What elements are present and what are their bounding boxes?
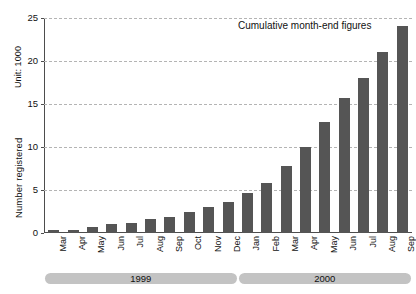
bar: [203, 207, 214, 233]
bar: [126, 223, 137, 233]
y-tick-label: 10: [27, 142, 38, 152]
bar: [300, 147, 311, 233]
bar: [339, 98, 350, 233]
x-tick-label: Mar: [58, 236, 68, 252]
bar: [319, 122, 330, 233]
bar: [164, 217, 175, 233]
bar: [68, 230, 79, 233]
bar: [106, 224, 117, 233]
x-tick-label: May: [329, 236, 339, 253]
bar: [145, 219, 156, 233]
x-tick-label: Oct: [193, 236, 203, 250]
bar: [184, 212, 195, 233]
x-tick-label: Jul: [368, 236, 378, 248]
bar: [281, 166, 292, 233]
chart-annotation: Cumulative month-end figures: [238, 20, 371, 31]
x-tick-label: Jun: [348, 236, 358, 251]
y-tick-label: 0: [33, 228, 38, 238]
x-tick-label: Feb: [271, 236, 281, 252]
x-tick-label: Aug: [155, 236, 165, 252]
x-tick-label: Dec: [232, 236, 242, 252]
x-tick-label: Aug: [387, 236, 397, 252]
bar: [397, 26, 408, 233]
x-tick-label: Jun: [116, 236, 126, 251]
year-band-label: 2000: [239, 273, 411, 284]
bar-series: [44, 18, 412, 233]
y-tick-label: 5: [33, 185, 38, 195]
bar: [377, 52, 388, 233]
x-tick-label: Jul: [135, 236, 145, 248]
bar-chart: Unit: 1000 Number registered 0510152025 …: [0, 0, 416, 294]
x-tick-label: Sep: [174, 236, 184, 252]
bar: [48, 230, 59, 233]
y-tick-mark: [41, 233, 44, 234]
x-tick-label: Apr: [309, 236, 319, 250]
unit-axis-label: Unit: 1000: [13, 46, 23, 88]
x-tick-label: Sep: [406, 236, 416, 252]
bar: [358, 78, 369, 233]
x-tick-label: Mar: [290, 236, 300, 252]
x-tick-label: Apr: [77, 236, 87, 250]
x-tick-label: Jan: [251, 236, 261, 251]
y-tick-label: 25: [27, 13, 38, 23]
y-axis-title: Number registered: [13, 138, 24, 218]
y-tick-label: 15: [27, 99, 38, 109]
year-band-label: 1999: [45, 273, 237, 284]
x-tick-label: Nov: [213, 236, 223, 252]
x-tick-label: May: [96, 236, 106, 253]
plot-area: 0510152025: [44, 18, 412, 233]
bar: [223, 202, 234, 233]
bar: [261, 183, 272, 233]
y-tick-label: 20: [27, 56, 38, 66]
bar: [242, 193, 253, 233]
bar: [87, 227, 98, 233]
